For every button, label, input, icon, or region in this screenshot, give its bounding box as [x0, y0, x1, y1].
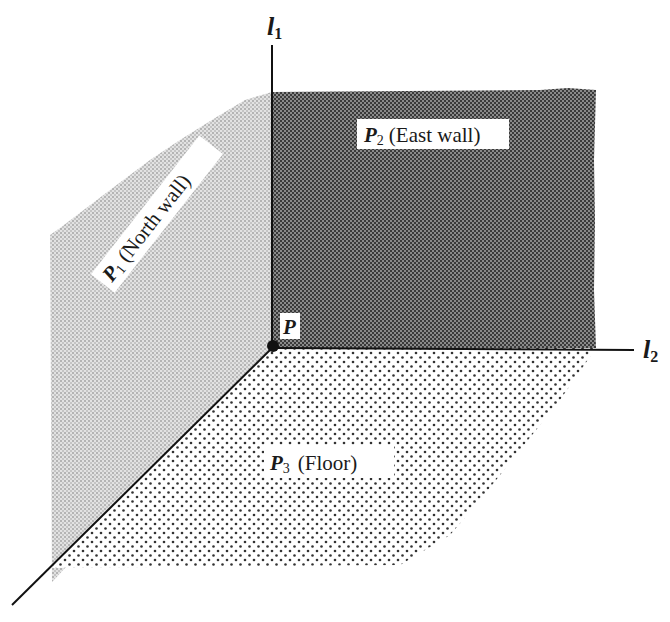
point-p-label: P — [282, 315, 296, 339]
axis-l1-label: l1 — [267, 12, 282, 42]
point-p-dot — [267, 340, 279, 352]
diagram-canvas: P l1 l2 P2(East wall) P1(North wall) P3(… — [0, 0, 670, 622]
floor-label: P3(Floor) — [269, 451, 357, 476]
axis-l2-label: l2 — [643, 335, 658, 365]
